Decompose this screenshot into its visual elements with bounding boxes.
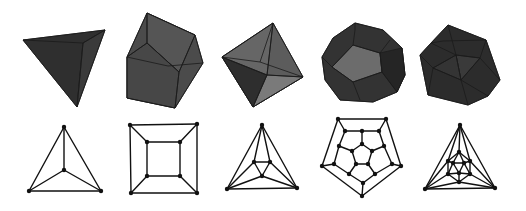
- graph-vertex: [268, 160, 272, 164]
- graph-vertex: [468, 159, 472, 163]
- graph-vertex: [99, 189, 103, 193]
- graph-edge: [130, 125, 131, 193]
- graph-vertex: [354, 162, 358, 166]
- graph-vertex: [399, 164, 403, 168]
- graph-vertex: [457, 150, 461, 154]
- graph-vertex: [462, 161, 466, 165]
- graph-vertex: [360, 142, 364, 146]
- platonic-solids-figure: [0, 0, 526, 211]
- graph-vertex: [446, 172, 450, 176]
- graph-vertex: [178, 174, 182, 178]
- graph-vertex: [145, 174, 149, 178]
- graph-vertex: [423, 187, 427, 191]
- graph-vertex: [360, 129, 364, 133]
- graph-vertex: [446, 159, 450, 163]
- graph-edge: [459, 125, 460, 152]
- graph-edge: [425, 188, 495, 189]
- graph-vertex: [366, 162, 370, 166]
- graph-vertex: [27, 189, 31, 193]
- graph-vertex: [370, 149, 374, 153]
- graph-vertex: [458, 123, 462, 127]
- graph-vertex: [320, 164, 324, 168]
- graph-vertex: [373, 172, 377, 176]
- graph-vertex: [451, 161, 455, 165]
- graph-vertex: [336, 117, 340, 121]
- graph-vertex: [457, 171, 461, 175]
- graph-vertex: [343, 129, 347, 133]
- graph-vertex: [195, 122, 199, 126]
- graph-vertex: [337, 144, 341, 148]
- graph-vertex: [347, 172, 351, 176]
- graph-vertex: [128, 123, 132, 127]
- graph-vertex: [361, 181, 365, 185]
- graph-vertex: [332, 162, 336, 166]
- graph-vertex: [62, 125, 66, 129]
- graph-vertex: [384, 117, 388, 121]
- graph-vertex: [377, 129, 381, 133]
- graph-vertex: [178, 140, 182, 144]
- graph-vertex: [390, 162, 394, 166]
- graph-vertex: [457, 180, 461, 184]
- graph-vertex: [145, 140, 149, 144]
- graph-vertex: [295, 186, 299, 190]
- graph-vertex: [62, 168, 66, 172]
- graph-edge: [130, 124, 197, 125]
- graph-vertex: [129, 191, 133, 195]
- graph-vertex: [382, 144, 386, 148]
- graph-vertex: [260, 123, 264, 127]
- graph-vertex: [225, 187, 229, 191]
- graph-vertex: [493, 186, 497, 190]
- graph-vertex: [252, 160, 256, 164]
- graph-vertex: [468, 172, 472, 176]
- graph-vertex: [260, 174, 264, 178]
- graph-edge: [227, 188, 297, 189]
- graph-vertex: [350, 149, 354, 153]
- graph-vertex: [195, 191, 199, 195]
- graph-vertex: [360, 194, 364, 198]
